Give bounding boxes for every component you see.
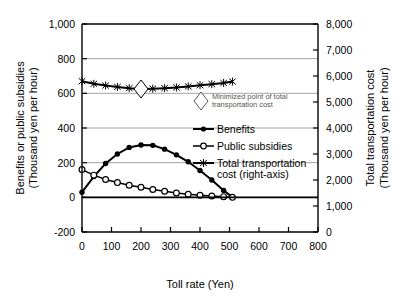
filled-circle-icon bbox=[201, 126, 206, 131]
y-tick-right: 8,000 bbox=[326, 18, 352, 30]
x-tick: 100 bbox=[103, 240, 121, 252]
y-tick-left: 0 bbox=[69, 191, 75, 203]
y-axis-left-title-line1: Benefits or public subsidies bbox=[14, 61, 26, 195]
x-tick: 200 bbox=[132, 240, 150, 252]
data-point bbox=[103, 161, 108, 166]
x-tick: 700 bbox=[280, 240, 298, 252]
y-axis-right-title-line1: Total transportation cost bbox=[364, 70, 376, 187]
y-tick-right: 6,000 bbox=[326, 70, 352, 82]
y-tick-right: 7,000 bbox=[326, 44, 352, 56]
y-tick-right: 4,000 bbox=[326, 122, 352, 134]
data-point bbox=[138, 142, 143, 147]
y-axis-right-title-line2: (Thousand yen per hour) bbox=[378, 67, 390, 188]
data-point bbox=[221, 188, 226, 193]
x-tick: 0 bbox=[79, 240, 85, 252]
data-point bbox=[103, 177, 109, 183]
legend-label-total-cost-2: cost (right-axis) bbox=[217, 168, 289, 180]
y-tick-right: 2,000 bbox=[326, 174, 352, 186]
y-tick-left: 200 bbox=[57, 157, 75, 169]
x-tick: 500 bbox=[221, 240, 239, 252]
legend-label-minimized-2: transportation cost bbox=[212, 100, 273, 109]
x-tick: 600 bbox=[250, 240, 268, 252]
legend-label-benefits: Benefits bbox=[217, 123, 255, 135]
x-tick: 400 bbox=[191, 240, 209, 252]
data-point bbox=[162, 146, 167, 151]
y-tick-left: 1,000 bbox=[49, 18, 75, 30]
data-point bbox=[138, 184, 144, 190]
x-tick: 800 bbox=[309, 240, 327, 252]
x-axis-title: Toll rate (Yen) bbox=[166, 278, 233, 290]
open-circle-icon bbox=[201, 143, 207, 149]
chart-figure: 1,0008006004002000-2008,0007,0006,0005,0… bbox=[0, 0, 404, 301]
data-point bbox=[209, 177, 214, 182]
y-tick-left: 800 bbox=[57, 53, 75, 65]
y-tick-right: 5,000 bbox=[326, 96, 352, 108]
data-point bbox=[127, 145, 132, 150]
data-point bbox=[150, 187, 156, 193]
data-point bbox=[115, 151, 120, 156]
y-tick-left: 400 bbox=[57, 122, 75, 134]
y-tick-right: 0 bbox=[326, 226, 332, 238]
y-axis-left-title-line2: (Thousand yen per hour) bbox=[27, 67, 39, 188]
data-point bbox=[186, 159, 191, 164]
data-point bbox=[174, 190, 180, 196]
data-point bbox=[174, 152, 179, 157]
data-point bbox=[126, 182, 132, 188]
data-point bbox=[115, 180, 121, 186]
data-point bbox=[150, 143, 155, 148]
y-axis-left-title: Benefits or public subsidies (Thousand y… bbox=[14, 61, 39, 195]
x-tick: 300 bbox=[162, 240, 180, 252]
legend-label-public-subsidies: Public subsidies bbox=[217, 140, 292, 152]
data-point bbox=[162, 188, 168, 194]
data-point bbox=[91, 172, 97, 178]
data-point bbox=[197, 168, 202, 173]
data-point bbox=[185, 191, 191, 197]
y-tick-right: 3,000 bbox=[326, 148, 352, 160]
y-tick-right: 1,000 bbox=[326, 200, 352, 212]
y-tick-left: -200 bbox=[54, 226, 75, 238]
y-tick-left: 600 bbox=[57, 87, 75, 99]
